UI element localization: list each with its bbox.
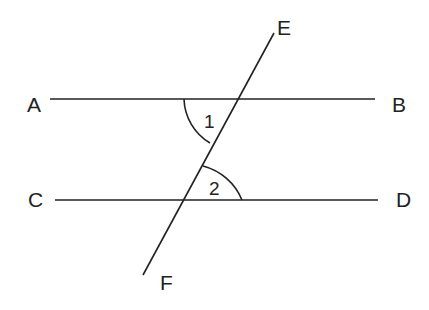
point-f-label: F [160,271,173,294]
point-b-label: B [392,93,406,116]
geometry-diagram: A B C D E F 1 2 [0,0,429,310]
point-e-label: E [277,16,291,39]
point-d-label: D [396,188,411,211]
angle-2-label: 2 [209,178,220,199]
angle-1-label: 1 [204,111,215,132]
point-c-label: C [28,188,43,211]
transversal-ef [143,33,274,275]
point-a-label: A [27,93,41,116]
